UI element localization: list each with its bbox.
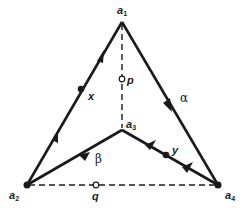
edge-a2-a1 [27, 22, 122, 185]
label-p: p [126, 74, 134, 86]
graph-diagram: a1 a2 a3 a4 x y p q α β [0, 0, 242, 215]
vertex-a2 [24, 182, 31, 189]
label-a4: a4 [225, 189, 235, 202]
point-y [163, 152, 170, 159]
label-a1: a1 [117, 4, 127, 17]
edge-a3-a2 [27, 130, 122, 185]
point-q [93, 182, 99, 188]
label-q: q [92, 190, 99, 202]
vertex-a4 [215, 182, 222, 189]
label-a2: a2 [9, 189, 19, 202]
label-y: y [171, 144, 179, 156]
label-beta: β [95, 152, 102, 166]
arrow-icon [97, 50, 104, 63]
arrow-icon [163, 98, 172, 112]
point-x [78, 86, 85, 93]
label-x: x [87, 90, 95, 102]
edge-a4-a3 [122, 130, 218, 185]
label-a3: a3 [126, 118, 136, 131]
arrow-icon [182, 162, 193, 173]
label-alpha: α [180, 91, 188, 105]
point-p [119, 76, 125, 82]
